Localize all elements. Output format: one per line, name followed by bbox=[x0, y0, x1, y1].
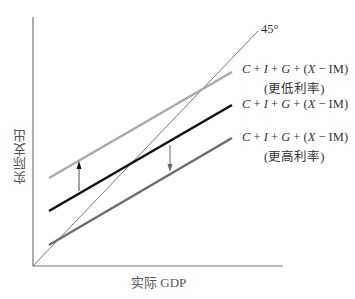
eq-im: IM) bbox=[329, 62, 348, 76]
eq-im: IM) bbox=[329, 130, 348, 144]
eq-plus: + bbox=[268, 130, 281, 144]
45-degree-line bbox=[33, 31, 258, 266]
expenditure-line-original bbox=[49, 105, 232, 211]
y-axis-label: 实际支出 bbox=[10, 128, 29, 184]
eq-plus: + bbox=[250, 62, 263, 76]
eq-minus: − bbox=[315, 130, 328, 144]
eq-im: IM) bbox=[329, 97, 348, 111]
shift-up-arrow-icon bbox=[77, 161, 82, 191]
eq-plus: + bbox=[290, 97, 303, 111]
eq-g: G bbox=[281, 97, 290, 111]
eq-plus: + bbox=[250, 130, 263, 144]
eq-plus: + bbox=[290, 62, 303, 76]
eq-minus: − bbox=[315, 97, 328, 111]
x-axis-label: 实际 GDP bbox=[131, 272, 186, 291]
note-lower-rate: (更低利率) bbox=[264, 78, 324, 97]
eq-g: G bbox=[281, 62, 290, 76]
note-higher-rate: (更高利率) bbox=[264, 146, 324, 165]
eq-minus: − bbox=[315, 62, 328, 76]
eq-g: G bbox=[281, 130, 290, 144]
45-degree-label: 45° bbox=[261, 22, 279, 37]
eq-plus: + bbox=[290, 130, 303, 144]
expenditure-line-lower-rate bbox=[49, 72, 232, 178]
equation-label-higher-rate: C + I + G + (X − IM) bbox=[242, 130, 348, 145]
equation-label-lower-rate: C + I + G + (X − IM) bbox=[242, 62, 348, 77]
eq-plus: + bbox=[268, 62, 281, 76]
shift-down-arrow-icon bbox=[168, 145, 173, 172]
eq-plus: + bbox=[268, 97, 281, 111]
equation-label-original: C + I + G + (X − IM) bbox=[242, 97, 348, 112]
eq-plus: + bbox=[250, 97, 263, 111]
